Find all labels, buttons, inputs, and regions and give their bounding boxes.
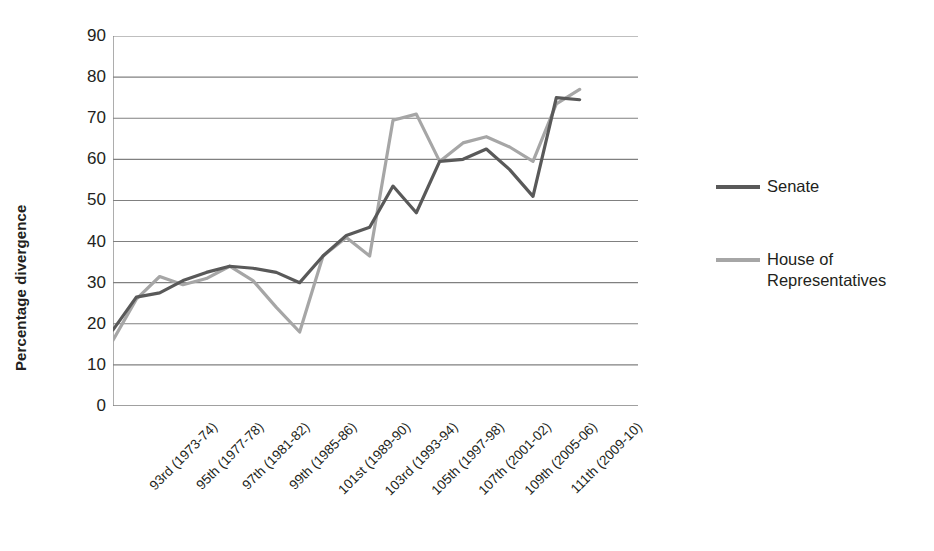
y-tick-label: 60 (87, 150, 106, 167)
chart-figure: Percentage divergence 010203040506070809… (0, 0, 934, 551)
plot-area (113, 36, 638, 406)
x-tick-label: 107th (2001-02) (476, 420, 554, 498)
y-tick-label: 80 (87, 68, 106, 85)
y-axis-title: Percentage divergence (12, 205, 34, 371)
legend-item: Senate (716, 176, 926, 197)
x-tick-label: 101st (1989-90) (336, 420, 413, 497)
chart-legend: SenateHouse of Representatives (716, 176, 926, 343)
y-tick-label: 10 (87, 356, 106, 373)
x-tick-label: 93rd (1973-74) (147, 420, 220, 493)
x-tick-label: 105th (1997-98) (429, 420, 507, 498)
y-tick-label: 20 (87, 315, 106, 332)
y-tick-label: 30 (87, 274, 106, 291)
x-tick-label: 99th (1985-86) (287, 420, 360, 493)
y-axis-tick-labels: 0102030405060708090 (72, 0, 106, 551)
y-tick-label: 40 (87, 233, 106, 250)
legend-label: Senate (767, 176, 819, 197)
y-tick-label: 70 (87, 109, 106, 126)
y-tick-label: 90 (87, 27, 106, 44)
x-tick-label: 109th (2005-06) (522, 420, 600, 498)
legend-item: House of Representatives (716, 249, 926, 291)
y-axis-title-container: Percentage divergence (0, 0, 46, 551)
y-tick-label: 50 (87, 191, 106, 208)
x-tick-label: 103rd (1993-94) (383, 420, 461, 498)
legend-color-swatch (716, 185, 760, 189)
y-tick-label: 0 (97, 397, 106, 414)
x-tick-label: 95th (1977-78) (194, 420, 267, 493)
x-tick-label: 97th (1981-82) (240, 420, 313, 493)
legend-color-swatch (716, 258, 760, 262)
series-line-senate (113, 98, 580, 330)
series-line-house-of-representatives (113, 89, 580, 340)
legend-label: House of Representatives (767, 249, 917, 291)
x-tick-label: 111th (2009-10) (569, 420, 645, 496)
